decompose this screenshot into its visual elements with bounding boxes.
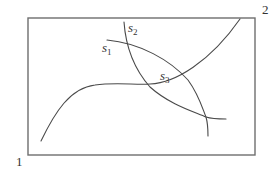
curves-diagram: s1 s2 s3 1 2 [0,0,277,173]
cubic-curve [41,19,240,141]
corner-label-2: 2 [262,2,269,17]
corner-label-1: 1 [16,154,23,169]
label-s3: s3 [160,68,170,85]
label-s1: s1 [102,40,112,57]
label-s2: s2 [128,20,138,37]
bounding-rectangle [28,18,255,155]
